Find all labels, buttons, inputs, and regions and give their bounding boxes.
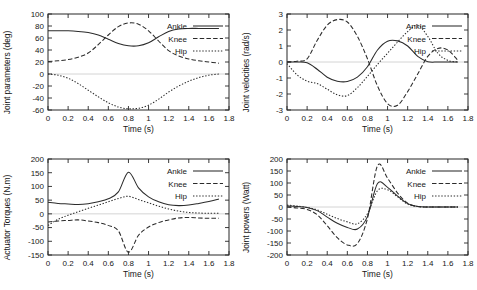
legend-label-knee: Knee [407, 180, 426, 189]
x-tick-label: 1.2 [163, 259, 175, 268]
y-tick-label: 2 [279, 26, 284, 35]
x-tick-label: 1 [385, 259, 390, 268]
x-tick-label: 0.2 [63, 114, 75, 123]
legend-label-hip: Hip [175, 192, 188, 201]
x-tick-label: 0.6 [342, 259, 354, 268]
series-line-knee [287, 164, 458, 246]
x-axis-label-joint-powers: Time (s) [287, 269, 468, 279]
y-tick-label: -150 [28, 251, 45, 260]
y-tick-label: 80 [35, 22, 44, 31]
y-tick-label: -150 [267, 239, 284, 248]
x-tick-label: 0.4 [83, 259, 95, 268]
panel-joint-parameters: Joint parameters (deg) 100806040200-20-4… [0, 0, 238, 145]
x-tick-label: 0 [46, 259, 51, 268]
series-line-knee [48, 217, 219, 252]
panel-joint-velocities: Joint velocities (rad/s) 3210-1-2-300.20… [239, 0, 477, 145]
y-tick-label: 20 [35, 58, 44, 67]
panel-actuator-torques: Actuator Torques (N.m) 200150100500-50-1… [0, 145, 238, 290]
y-tick-label: 100 [270, 179, 284, 188]
legend-label-hip: Hip [414, 192, 427, 201]
series-line-hip [287, 25, 458, 96]
x-tick-label: 0.2 [302, 259, 314, 268]
x-tick-label: 1.6 [442, 114, 454, 123]
y-axis-label-joint-velocities: Joint velocities (rad/s) [239, 0, 253, 145]
x-tick-label: 1.4 [422, 114, 434, 123]
x-tick-label: 1.4 [422, 259, 434, 268]
x-tick-label: 0.4 [322, 114, 334, 123]
y-tick-label: 150 [31, 169, 45, 178]
x-axis-label-joint-velocities: Time (s) [287, 124, 468, 134]
y-tick-label: 50 [35, 196, 44, 205]
y-tick-label: 100 [31, 182, 45, 191]
legend-label-ankle: Ankle [167, 22, 188, 31]
legend-label-ankle: Ankle [406, 22, 427, 31]
x-tick-label: 0.8 [362, 114, 374, 123]
x-tick-label: 0.8 [362, 259, 374, 268]
x-tick-label: 0.2 [63, 259, 75, 268]
x-tick-label: 1.8 [462, 114, 474, 123]
legend-label-hip: Hip [175, 47, 188, 56]
x-tick-label: 1.2 [402, 259, 414, 268]
series-line-knee [287, 19, 458, 106]
y-tick-label: -1 [276, 74, 284, 83]
y-tick-label: 1 [279, 42, 284, 51]
y-tick-label: -50 [32, 223, 44, 232]
y-tick-label: -60 [32, 106, 44, 115]
y-tick-label: 0 [40, 210, 45, 219]
y-tick-label: 40 [35, 46, 44, 55]
x-tick-label: 0.4 [83, 114, 95, 123]
x-tick-label: 1.6 [442, 259, 454, 268]
y-tick-label: -200 [267, 251, 284, 260]
y-axis-label-joint-parameters: Joint parameters (deg) [0, 0, 14, 145]
legend-label-knee: Knee [168, 180, 187, 189]
y-tick-label: 0 [279, 203, 284, 212]
x-tick-label: 0 [285, 114, 290, 123]
y-axis-label-actuator-torques: Actuator Torques (N.m) [0, 145, 14, 290]
series-line-hip [48, 196, 219, 225]
x-tick-label: 1.4 [183, 259, 195, 268]
x-tick-label: 1.6 [203, 259, 215, 268]
x-tick-label: 0.4 [322, 259, 334, 268]
y-tick-label: -40 [32, 94, 44, 103]
y-tick-label: -50 [271, 215, 283, 224]
legend-label-ankle: Ankle [406, 167, 427, 176]
series-line-ankle [48, 28, 219, 46]
y-tick-label: -2 [276, 90, 284, 99]
y-tick-label: 50 [274, 191, 283, 200]
x-tick-label: 0.8 [123, 114, 135, 123]
y-tick-label: 100 [31, 10, 45, 19]
y-tick-label: 60 [35, 34, 44, 43]
legend-label-knee: Knee [168, 35, 187, 44]
x-tick-label: 1.2 [163, 114, 175, 123]
x-axis-label-actuator-torques: Time (s) [48, 269, 229, 279]
x-tick-label: 1.2 [402, 114, 414, 123]
series-line-hip [48, 74, 219, 109]
y-axis-label-joint-powers: Joint powers (Watt) [239, 145, 253, 290]
x-axis-label-joint-parameters: Time (s) [48, 124, 229, 134]
y-tick-label: 0 [40, 70, 45, 79]
x-tick-label: 1.8 [462, 259, 474, 268]
y-tick-label: 0 [279, 58, 284, 67]
y-tick-label: -100 [267, 227, 284, 236]
x-tick-label: 0 [46, 114, 51, 123]
y-tick-label: 3 [279, 10, 284, 19]
figure-four-panel-gait-plots: Joint parameters (deg) 100806040200-20-4… [0, 0, 477, 290]
y-tick-label: -20 [32, 82, 44, 91]
x-tick-label: 0.2 [302, 114, 314, 123]
x-tick-label: 1 [385, 114, 390, 123]
x-tick-label: 1.8 [223, 114, 235, 123]
x-tick-label: 0 [285, 259, 290, 268]
x-tick-label: 0.6 [342, 114, 354, 123]
series-line-ankle [287, 40, 458, 82]
x-tick-label: 1.8 [223, 259, 235, 268]
panel-joint-powers: Joint powers (Watt) 200150100500-50-100-… [239, 145, 477, 290]
y-tick-label: -100 [28, 237, 45, 246]
x-tick-label: 1.6 [203, 114, 215, 123]
x-tick-label: 0.8 [123, 259, 135, 268]
y-tick-label: 200 [270, 155, 284, 164]
legend-label-ankle: Ankle [167, 167, 188, 176]
legend-label-hip: Hip [414, 47, 427, 56]
x-tick-label: 1 [146, 259, 151, 268]
series-line-knee [48, 23, 219, 63]
y-tick-label: 150 [270, 167, 284, 176]
